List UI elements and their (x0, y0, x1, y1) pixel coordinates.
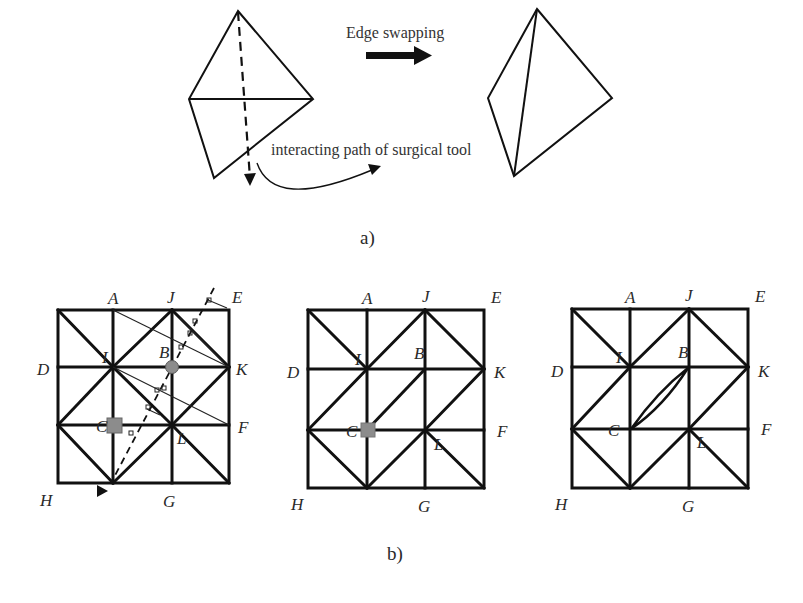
label-f: F (496, 422, 508, 441)
label-k: K (493, 363, 507, 382)
label-i: I (354, 350, 362, 369)
label-j: J (422, 287, 431, 306)
label-d: D (36, 360, 50, 379)
label-k: K (235, 360, 249, 379)
label-l: L (176, 429, 186, 448)
label-b: B (414, 344, 425, 363)
mesh-after-swap (488, 9, 612, 176)
label-c: C (608, 421, 620, 440)
label-h: H (39, 491, 54, 510)
swapped-edge (514, 9, 537, 176)
label-l: L (696, 433, 706, 452)
label-e: E (231, 288, 243, 307)
panel-a: interacting path of surgical tool Edge s… (189, 9, 612, 249)
label-b: B (159, 343, 170, 362)
label-g: G (682, 497, 694, 516)
caption-a: a) (360, 227, 375, 249)
swap-arrow-head-icon (414, 46, 432, 65)
label-l: L (433, 435, 443, 454)
label-a: A (107, 289, 119, 308)
label-k: K (757, 362, 771, 381)
label-g: G (418, 497, 430, 516)
tool-path-arrowhead-icon (97, 485, 108, 497)
caption-b: b) (387, 543, 403, 565)
label-c: C (96, 417, 108, 436)
label-e: E (754, 287, 766, 306)
label-j: J (167, 288, 176, 307)
vertex-b-marker (166, 361, 179, 374)
label-h: H (290, 495, 305, 514)
label-d: D (286, 363, 300, 382)
edge-swapping-label: Edge swapping (346, 24, 444, 42)
curved-pointer-arrowhead-icon (368, 164, 381, 175)
label-h: H (554, 495, 569, 514)
label-a: A (624, 288, 636, 307)
curved-pointer-arrow (257, 163, 372, 189)
grid-after: A J E D I B K C L F H G (550, 286, 772, 516)
swapped-edge-cb (631, 368, 688, 429)
label-a: A (361, 289, 373, 308)
vertex-c-marker (361, 423, 375, 437)
label-e: E (490, 288, 502, 307)
label-j: J (685, 286, 694, 305)
vertex-c-marker (107, 418, 122, 433)
label-b: B (678, 343, 689, 362)
tool-path-label: interacting path of surgical tool (271, 141, 472, 159)
quad-outline-swapped (488, 9, 612, 176)
grid-before: A J E D I B K C L F H G (36, 288, 249, 511)
label-c: C (346, 422, 358, 441)
label-f: F (760, 420, 772, 439)
grid-swapping: A J E D I B K C L F H G (286, 287, 508, 516)
label-d: D (550, 362, 564, 381)
label-f: F (237, 418, 249, 437)
tool-path-arrowhead-icon (244, 173, 256, 186)
label-i: I (101, 348, 109, 367)
figure-canvas: interacting path of surgical tool Edge s… (0, 0, 803, 603)
swap-arrow-shaft (366, 52, 416, 59)
label-g: G (163, 492, 175, 511)
